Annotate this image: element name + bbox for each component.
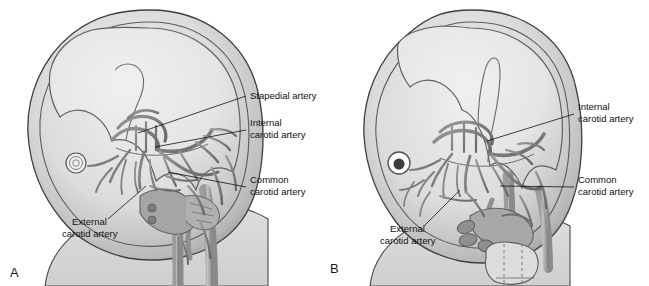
- label-b-internal-carotid-artery-line2: carotid artery: [578, 113, 634, 124]
- label-b-internal-carotid-artery-line1: Internal: [578, 101, 610, 112]
- illustration-canvas: Stapedial artery Internal carotid artery…: [0, 0, 649, 286]
- label-b-common-carotid-artery-line2: carotid artery: [578, 186, 634, 197]
- label-external-carotid-artery-line1: External: [72, 216, 107, 227]
- label-stapedial-artery: Stapedial artery: [250, 90, 317, 101]
- label-b-external-carotid-artery-line1: External: [390, 223, 425, 234]
- label-internal-carotid-artery-line2: carotid artery: [250, 129, 306, 140]
- panel-a: Stapedial artery Internal carotid artery…: [10, 10, 317, 286]
- label-common-carotid-artery: Common carotid artery: [250, 174, 306, 197]
- label-internal-carotid-artery: Internal carotid artery: [250, 117, 306, 140]
- label-b-internal-carotid-artery: Internal carotid artery: [578, 101, 634, 124]
- panel-b-eye: [388, 152, 410, 174]
- label-b-external-carotid-artery-line2: carotid artery: [380, 235, 436, 246]
- panel-letter-a: A: [10, 265, 19, 280]
- label-common-carotid-artery-line1: Common: [250, 174, 289, 185]
- label-common-carotid-artery-line2: carotid artery: [250, 186, 306, 197]
- panel-a-eye: [66, 153, 86, 173]
- panel-b-outflow-tract: [485, 242, 538, 284]
- label-b-common-carotid-artery-line1: Common: [578, 174, 617, 185]
- label-external-carotid-artery-line2: carotid artery: [62, 228, 118, 239]
- label-b-common-carotid-artery: Common carotid artery: [578, 174, 634, 197]
- label-b-external-carotid-artery: External carotid artery: [380, 223, 436, 246]
- figure-carotid-development: Stapedial artery Internal carotid artery…: [0, 0, 649, 286]
- panel-b: Internal carotid artery Common carotid a…: [330, 10, 634, 286]
- panel-letter-b: B: [330, 261, 339, 276]
- label-internal-carotid-artery-line1: Internal: [250, 117, 282, 128]
